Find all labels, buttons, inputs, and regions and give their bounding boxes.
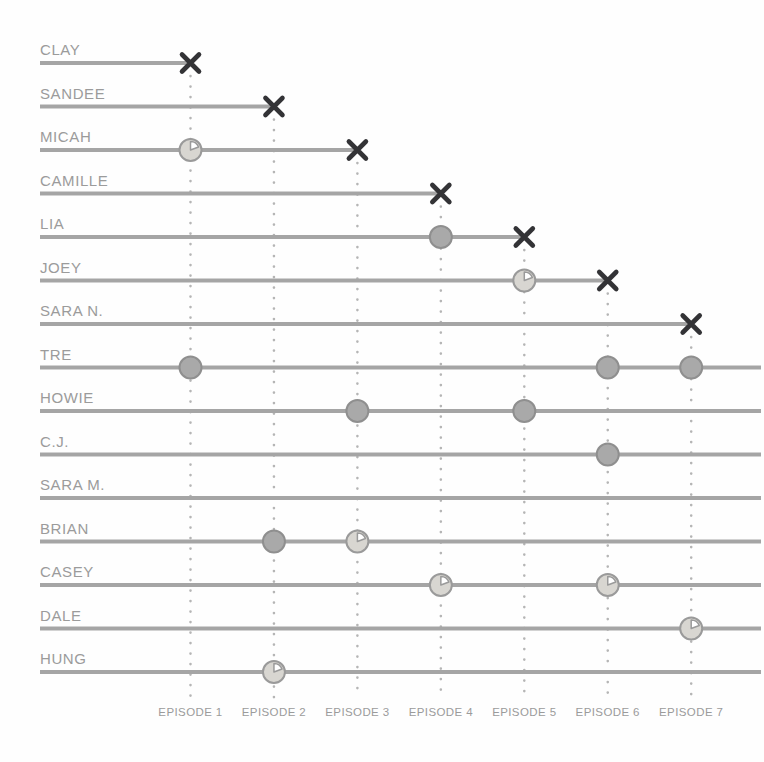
episode-axis-label: EPISODE 5 — [492, 706, 556, 718]
episode-axis-label: EPISODE 7 — [659, 706, 723, 718]
episode-axis-label: EPISODE 1 — [158, 706, 222, 718]
contestant-label: TRE — [40, 346, 72, 363]
contestant-label: HUNG — [40, 650, 87, 667]
contestant-label: LIA — [40, 215, 64, 232]
solid-circle-marker — [180, 357, 202, 379]
solid-circle-marker — [346, 400, 368, 422]
contestant-label: JOEY — [40, 259, 82, 276]
episode-axis-label: EPISODE 3 — [325, 706, 389, 718]
contestant-label: DALE — [40, 607, 82, 624]
contestant-label: CAMILLE — [40, 172, 108, 189]
episode-axis-label: EPISODE 6 — [576, 706, 640, 718]
contestant-label: C.J. — [40, 433, 69, 450]
chart-canvas: CLAYSANDEEMICAHCAMILLELIAJOEYSARA N.TREH… — [0, 0, 764, 762]
solid-circle-marker — [263, 531, 285, 553]
solid-circle-marker — [513, 400, 535, 422]
episode-axis-label: EPISODE 2 — [242, 706, 306, 718]
contestant-label: MICAH — [40, 128, 91, 145]
contestant-label: BRIAN — [40, 520, 89, 537]
contestant-label: CLAY — [40, 41, 80, 58]
timeline-chart: CLAYSANDEEMICAHCAMILLELIAJOEYSARA N.TREH… — [0, 0, 764, 762]
solid-circle-marker — [680, 357, 702, 379]
solid-circle-marker — [597, 444, 619, 466]
contestant-label: SANDEE — [40, 85, 105, 102]
contestant-label: CASEY — [40, 563, 94, 580]
contestant-label: SARA N. — [40, 302, 103, 319]
episode-axis-label: EPISODE 4 — [409, 706, 474, 718]
solid-circle-marker — [430, 226, 452, 248]
solid-circle-marker — [597, 357, 619, 379]
contestant-label: HOWIE — [40, 389, 94, 406]
contestant-label: SARA M. — [40, 476, 105, 493]
